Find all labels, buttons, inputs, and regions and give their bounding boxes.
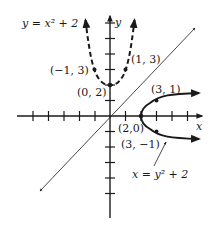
label-point-3-1: (3, 1)	[151, 83, 181, 96]
label-point-neg1-3: (−1, 3)	[50, 64, 89, 77]
point-2-0	[139, 114, 144, 119]
coordinate-graph: x y (−1, 3) (1, 3) (0, 2) (3, 1) (2,0)	[0, 0, 210, 228]
label-point-2-0: (2,0)	[118, 122, 144, 135]
y-axis-label: y	[114, 16, 122, 29]
line-y-equals-x	[40, 28, 195, 191]
point-neg1-3	[93, 68, 97, 72]
point-1-3	[124, 68, 128, 72]
label-point-3-neg1: (3, −1)	[121, 138, 160, 151]
point-3-1	[155, 99, 159, 103]
label-point-1-3: (1, 3)	[131, 53, 161, 66]
label-equation-parabola-right: x = y² + 2	[132, 168, 188, 181]
label-point-0-2: (0, 2)	[77, 86, 107, 99]
point-0-2	[108, 83, 113, 88]
point-3-neg1	[155, 130, 159, 134]
label-equation-parabola-up: y = x² + 2	[21, 17, 78, 30]
y-axis: y	[105, 16, 122, 218]
x-axis-label: x	[196, 120, 203, 133]
